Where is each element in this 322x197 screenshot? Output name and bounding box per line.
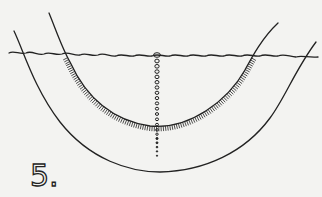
inner-basin-line [49, 13, 278, 126]
outer-basin-line [14, 31, 316, 172]
sediment-hatching [63, 58, 256, 132]
bubble-column [154, 53, 161, 157]
water-surface-line [9, 52, 318, 57]
figure-number: 5. [30, 161, 59, 191]
